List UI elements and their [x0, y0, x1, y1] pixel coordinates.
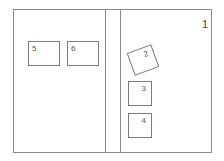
- box-5[interactable]: 5: [28, 41, 60, 66]
- box-6-label: 6: [71, 45, 75, 53]
- left-divider-line: [105, 9, 106, 153]
- box-3[interactable]: 3: [128, 81, 152, 106]
- box-5-label: 5: [32, 45, 36, 53]
- page-number-label: 1: [202, 19, 208, 30]
- box-4[interactable]: 4: [128, 113, 152, 138]
- box-4-label: 4: [142, 117, 146, 125]
- outer-frame: [13, 9, 212, 153]
- box-3-label: 3: [142, 85, 146, 93]
- box-6[interactable]: 6: [67, 41, 99, 66]
- box-2-label: 2: [143, 50, 150, 59]
- right-divider-line: [120, 9, 121, 153]
